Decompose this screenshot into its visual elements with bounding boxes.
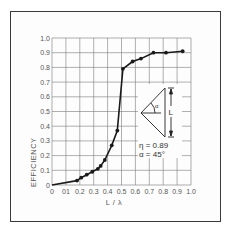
x-tick-label: 01 [62, 188, 70, 195]
data-point-marker [131, 60, 135, 64]
data-point-marker [96, 167, 100, 171]
y-tick-label: 0.5 [40, 108, 50, 115]
x-tick-label: 0.3 [89, 188, 99, 195]
x-tick-label: 0 [50, 188, 54, 195]
x-tick-label: 0.8 [158, 188, 168, 195]
x-tick-label: 0.4 [103, 188, 113, 195]
y-tick-label: 0.3 [40, 137, 50, 144]
x-tick-label: 0.9 [172, 188, 182, 195]
angle-label: α [155, 103, 159, 109]
data-point-marker [90, 170, 94, 174]
y-tick-label: 0.4 [40, 123, 50, 130]
y-tick-label: 0.1 [40, 167, 50, 174]
y-tick-label: 0.7 [40, 79, 50, 86]
y-tick-label: 0.8 [40, 64, 50, 71]
data-point-marker [121, 67, 125, 71]
data-point-marker [139, 57, 143, 61]
x-axis-label: L / λ [106, 198, 122, 207]
y-axis-label: EFFICIENCY [29, 137, 38, 187]
y-tick-label: 0.6 [40, 93, 50, 100]
data-point-marker [99, 164, 103, 168]
data-point-marker [164, 51, 168, 55]
x-tick-label: 1.0 [186, 188, 196, 195]
data-point-marker [115, 129, 119, 133]
y-tick-label: 0.9 [40, 49, 50, 56]
alpha-annotation: α = 45° [139, 150, 165, 159]
dimension-label: L [169, 108, 174, 117]
data-point-marker [103, 158, 107, 162]
efficiency-chart: 00.10.20.30.40.50.60.70.80.91.0 0010.20.… [0, 0, 229, 230]
y-tick-label: 0.2 [40, 152, 50, 159]
x-tick-label: 0.5 [117, 188, 127, 195]
y-tick-label: 1.0 [40, 35, 50, 42]
data-point-marker [110, 143, 114, 147]
data-point-marker [181, 49, 185, 53]
data-point-marker [79, 176, 83, 180]
x-axis-ticks: 0010.20.30.40.50.60.70.80.91.0 [50, 188, 196, 195]
data-point-marker [75, 179, 79, 183]
x-tick-label: 0.6 [131, 188, 141, 195]
data-point-marker [152, 51, 156, 55]
y-axis-ticks: 00.10.20.30.40.50.60.70.80.91.0 [40, 35, 50, 189]
eta-annotation: η = 0.89 [139, 141, 169, 150]
x-tick-label: 0.2 [75, 188, 85, 195]
x-tick-label: 0.7 [144, 188, 154, 195]
data-point-marker [85, 173, 89, 177]
